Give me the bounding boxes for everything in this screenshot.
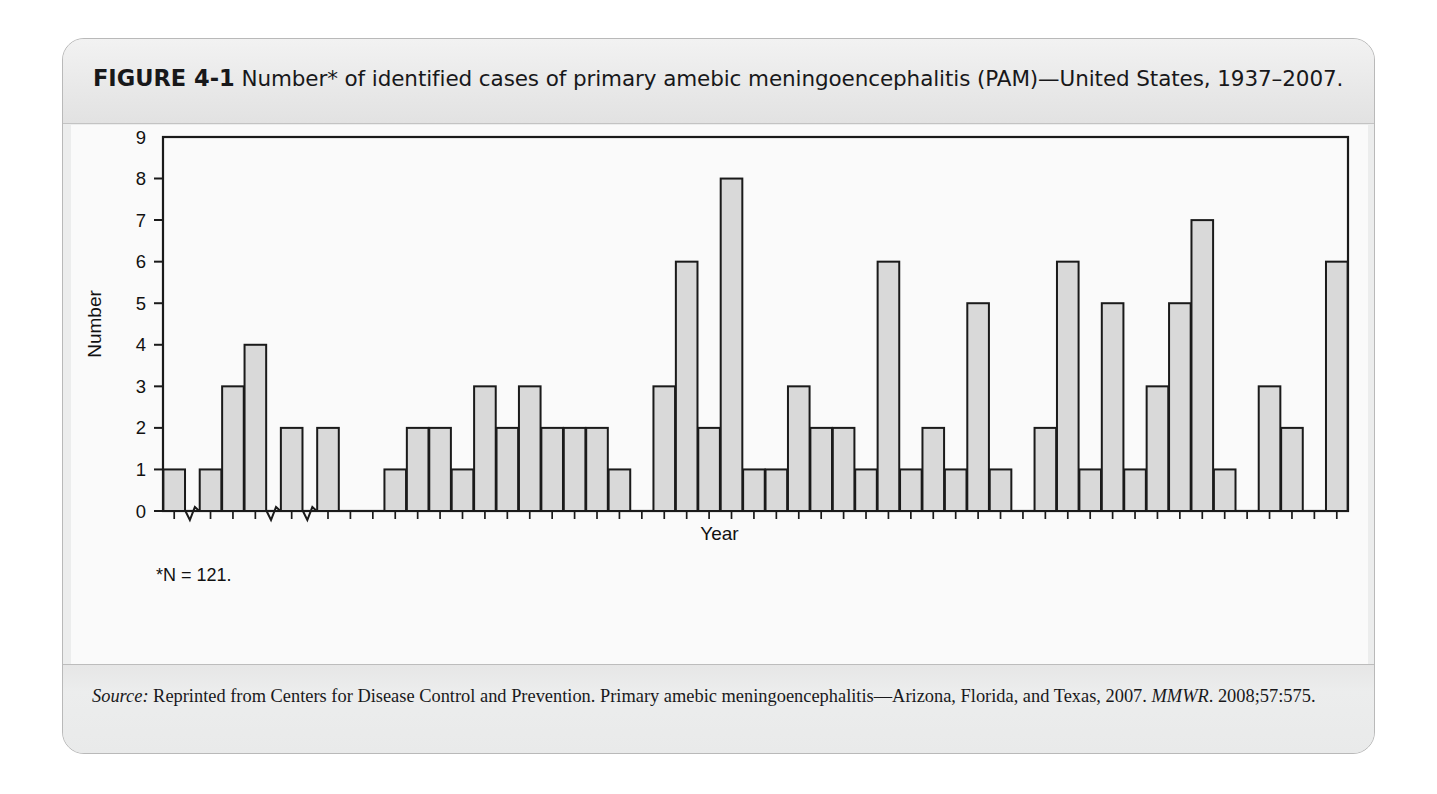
source-citation: Source: Reprinted from Centers for Disea… [92, 683, 1350, 709]
bar [766, 469, 788, 511]
axis-break-marker [303, 507, 317, 520]
bar [317, 428, 339, 511]
bar [721, 179, 743, 511]
bar [878, 262, 900, 511]
y-tick-label: 9 [136, 127, 146, 148]
figure-title: FIGURE 4-1 Number* of identified cases o… [93, 65, 1354, 91]
bar [900, 469, 922, 511]
bar [452, 469, 474, 511]
bar [855, 469, 877, 511]
bar-chart: 0123456789Number193719501957196219671972… [71, 125, 1368, 525]
bar [676, 262, 698, 511]
bar [586, 428, 608, 511]
source-journal: MMWR [1152, 686, 1209, 706]
y-tick-label: 7 [136, 210, 146, 231]
bar [281, 428, 303, 511]
source-band: Source: Reprinted from Centers for Disea… [63, 664, 1374, 753]
bar [1079, 469, 1101, 511]
bar [163, 469, 185, 511]
figure-header: FIGURE 4-1 Number* of identified cases o… [63, 39, 1374, 124]
axis-break-marker [267, 507, 281, 520]
bar [474, 386, 496, 511]
bar [200, 469, 222, 511]
figure-label: FIGURE 4-1 [93, 65, 235, 91]
chart-footnote: *N = 121. [156, 565, 232, 586]
bar [1281, 428, 1303, 511]
bar [564, 428, 586, 511]
bar [1259, 386, 1281, 511]
bar [810, 428, 832, 511]
chart-panel: 0123456789Number193719501957196219671972… [71, 125, 1368, 664]
bar [1102, 303, 1124, 511]
bar [609, 469, 631, 511]
y-tick-label: 2 [136, 417, 146, 438]
y-tick-label: 4 [136, 334, 146, 355]
bar [1326, 262, 1348, 511]
bar [497, 428, 519, 511]
figure-caption: Number* of identified cases of primary a… [241, 66, 1343, 91]
bar [1191, 220, 1213, 511]
bar [990, 469, 1012, 511]
bar [967, 303, 989, 511]
source-body: Reprinted from Centers for Disease Contr… [149, 686, 1152, 706]
bar [743, 469, 765, 511]
bar [922, 428, 944, 511]
bar [653, 386, 675, 511]
y-tick-label: 5 [136, 293, 146, 314]
y-tick-label: 3 [136, 376, 146, 397]
y-tick-label: 1 [136, 459, 146, 480]
bar [698, 428, 720, 511]
bar [945, 469, 967, 511]
bar [1057, 262, 1079, 511]
bar [245, 345, 267, 511]
bar [1214, 469, 1236, 511]
axis-break-marker [185, 507, 199, 520]
bar [222, 386, 244, 511]
bar [1035, 428, 1057, 511]
bar [1169, 303, 1191, 511]
bar [833, 428, 855, 511]
bar [519, 386, 541, 511]
y-tick-label: 6 [136, 251, 146, 272]
y-tick-label: 8 [136, 168, 146, 189]
source-tail: . 2008;57:575. [1209, 686, 1316, 706]
y-axis-title: Number [84, 290, 105, 358]
bar [429, 428, 451, 511]
bar [788, 386, 810, 511]
y-tick-label: 0 [136, 501, 146, 522]
chart-area: 0123456789Number193719501957196219671972… [71, 125, 1368, 664]
figure-container: FIGURE 4-1 Number* of identified cases o… [62, 38, 1375, 754]
bar [384, 469, 406, 511]
bar [407, 428, 429, 511]
bar [1124, 469, 1146, 511]
bar [541, 428, 563, 511]
source-prefix: Source: [92, 686, 149, 706]
figure-page: FIGURE 4-1 Number* of identified cases o… [0, 0, 1437, 794]
x-axis-title: Year [71, 523, 1368, 545]
bar [1147, 386, 1169, 511]
